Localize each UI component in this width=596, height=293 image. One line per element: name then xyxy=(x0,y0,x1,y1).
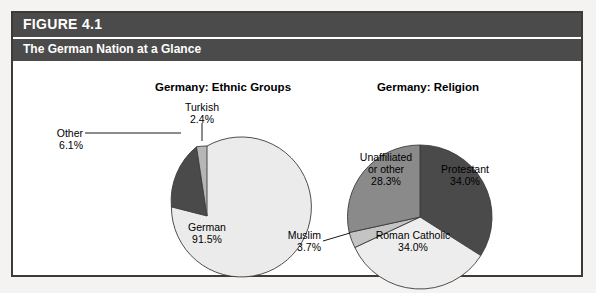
label-german-name: German xyxy=(173,221,241,233)
label-turkish: Turkish 2.4% xyxy=(161,101,243,125)
leader-line-muslim xyxy=(323,233,350,241)
label-protestant-pct: 34.0% xyxy=(427,175,503,187)
figure-number-label: FIGURE 4.1 xyxy=(23,16,102,32)
pie-ethnic-groups xyxy=(85,123,311,277)
label-unaffiliated-name-1: Unaffiliated xyxy=(349,151,423,163)
label-other: Other 6.1% xyxy=(13,127,83,151)
label-protestant: Protestant 34.0% xyxy=(427,163,503,187)
label-roman-catholic-name: Roman Catholic xyxy=(355,229,471,241)
figure-header: FIGURE 4.1 The German Nation at a Glance xyxy=(13,13,581,61)
figure-caption-label: The German Nation at a Glance xyxy=(23,42,201,56)
label-unaffiliated-pct: 28.3% xyxy=(349,175,423,187)
label-protestant-name: Protestant xyxy=(427,163,503,175)
label-roman-catholic: Roman Catholic 34.0% xyxy=(355,229,471,253)
charts-area: Germany: Ethnic Groups Germany: Religion xyxy=(13,61,581,275)
label-turkish-pct: 2.4% xyxy=(161,113,243,125)
page-background: FIGURE 4.1 The German Nation at a Glance… xyxy=(0,0,596,293)
label-unaffiliated: Unaffiliated or other 28.3% xyxy=(349,151,423,187)
label-roman-catholic-pct: 34.0% xyxy=(355,241,471,253)
label-unaffiliated-name-2: or other xyxy=(349,163,423,175)
label-other-pct: 6.1% xyxy=(13,139,83,151)
label-muslim-pct: 3.7% xyxy=(253,241,321,253)
label-other-name: Other xyxy=(13,127,83,139)
figure-container: FIGURE 4.1 The German Nation at a Glance… xyxy=(11,11,583,277)
label-muslim: Muslim 3.7% xyxy=(253,229,321,253)
figure-number-band: FIGURE 4.1 xyxy=(13,13,581,37)
label-muslim-name: Muslim xyxy=(253,229,321,241)
label-turkish-name: Turkish xyxy=(161,101,243,113)
label-german: German 91.5% xyxy=(173,221,241,245)
label-german-pct: 91.5% xyxy=(173,233,241,245)
figure-caption-band: The German Nation at a Glance xyxy=(13,39,581,61)
